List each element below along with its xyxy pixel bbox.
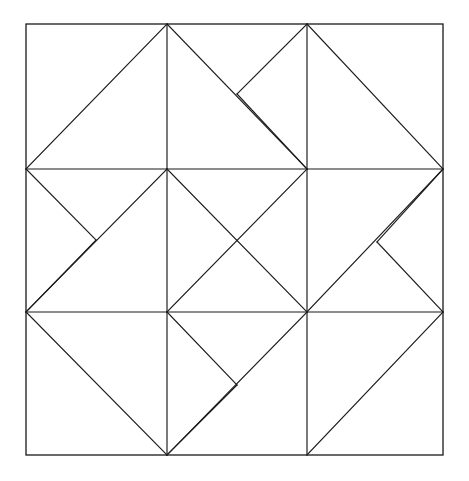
geometric-line-figure	[0, 0, 469, 481]
figure-background	[0, 0, 469, 481]
figure-canvas	[0, 0, 469, 481]
